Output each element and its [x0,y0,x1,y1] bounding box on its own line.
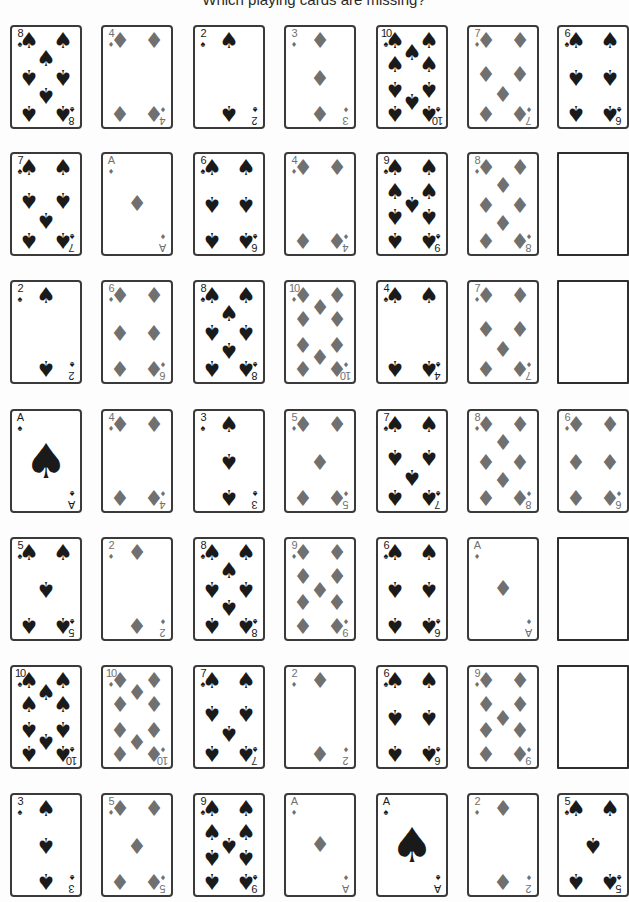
card-index-br: A♠ [432,873,444,894]
diamond-icon: ♦ [471,808,483,817]
diamond-icon: ♦ [144,694,164,716]
diamond-icon: ♦ [293,309,313,331]
playing-card: 4♦4♦♦♦♦♦ [101,25,173,129]
card-rank: 3 [288,28,300,39]
diamond-icon: ♦ [293,542,313,564]
spade-icon: ♠ [385,542,405,564]
card-rank: A [432,883,444,894]
card-rank: 3 [197,412,209,423]
card-index-br: 3♠ [66,873,78,894]
diamond-icon: ♦ [110,694,130,716]
card-index-tl: 2♦ [105,540,117,561]
playing-card: 6♠6♠♠♠♠♠♠♠ [557,25,629,129]
diamond-icon: ♦ [476,718,496,740]
playing-card: 7♠7♠♠♠♠♠♠♠♠ [10,152,82,256]
playing-card: A♦A♦♦ [467,537,539,641]
spade-icon: ♠ [566,870,586,892]
card-index-br: 2♦ [523,873,535,894]
diamond-icon: ♦ [127,542,147,564]
card-index-br: A♦ [340,873,352,894]
playing-card: 7♦7♦♦♦♦♦♦♦♦ [467,280,539,384]
spade-icon: ♠ [419,706,439,728]
diamond-icon: ♦ [523,617,535,626]
spade-icon: ♠ [53,157,73,179]
diamond-icon: ♦ [340,745,352,754]
spade-icon: ♠ [219,414,239,436]
card-index-tl: 2♦ [288,668,300,689]
card-rank: 2 [14,283,26,294]
card-rank: A [523,627,535,638]
playing-card: 9♦9♦♦♦♦♦♦♦♦♦♦ [467,665,539,769]
diamond-icon: ♦ [327,414,347,436]
playing-card: 3♠3♠♠♠♠ [193,409,265,513]
diamond-icon: ♦ [510,742,530,764]
spade-icon: ♠ [385,486,405,508]
diamond-icon: ♦ [476,670,496,692]
diamond-icon: ♦ [600,414,620,436]
playing-card: 10♠10♠♠♠♠♠♠♠♠♠♠♠ [376,25,448,129]
diamond-icon: ♦ [476,30,496,52]
card-rank: A [14,412,26,423]
diamond-icon: ♦ [144,321,164,343]
spade-icon: ♠ [219,486,239,508]
diamond-icon: ♦ [127,614,147,636]
card-index-br: 3♠ [249,489,261,510]
diamond-icon: ♦ [110,742,130,764]
question-title: Which playing cards are missing? [0,0,628,8]
diamond-icon: ♦ [600,486,620,508]
playing-card: 7♠7♠♠♠♠♠♠♠♠ [376,409,448,513]
card-index-tl: A♦ [105,155,117,176]
card-index-tl: A♠ [380,796,392,817]
diamond-icon: ♦ [110,414,130,436]
spade-icon: ♠ [600,102,620,124]
playing-card: 2♦2♦♦♦ [467,793,539,897]
playing-card: 9♠9♠♠♠♠♠♠♠♠♠♠ [376,152,448,256]
card-index-br: 2♠ [66,360,78,381]
card-index-br: A♠ [66,489,78,510]
diamond-icon: ♦ [144,870,164,892]
diamond-icon: ♦ [327,157,347,179]
spade-icon: ♠ [419,542,439,564]
diamond-icon: ♦ [310,66,330,88]
spade-icon: ♠ [236,357,256,379]
diamond-icon: ♦ [493,798,513,820]
spade-icon: ♠ [236,321,256,343]
diamond-icon: ♦ [510,317,530,339]
spade-icon: ♠ [19,102,39,124]
diamond-icon: ♦ [476,486,496,508]
spade-icon: ♠ [14,295,26,304]
spade-icon: ♠ [236,742,256,764]
spade-icon: ♠ [36,834,56,856]
playing-card: 5♦5♦♦♦♦♦♦ [101,793,173,897]
blank-card-slot [557,152,629,256]
playing-card: 2♠2♠♠♠ [193,25,265,129]
spade-icon: ♠ [419,54,439,76]
spade-icon: ♠ [419,181,439,203]
spade-icon: ♠ [385,205,405,227]
spade-icon: ♠ [385,229,405,251]
spade-icon: ♠ [53,30,73,52]
spade-icon: ♠ [236,846,256,868]
spade-icon: ♠ [14,424,26,433]
spade-icon: ♠ [236,798,256,820]
card-index-tl: 3♦ [288,28,300,49]
card-index-tl: 2♦ [471,796,483,817]
diamond-icon: ♦ [510,450,530,472]
spade-icon: ♠ [202,614,222,636]
blank-card-slot [557,665,629,769]
diamond-icon: ♦ [127,834,147,856]
spade-icon: ♠ [566,30,586,52]
diamond-icon: ♦ [471,552,483,561]
card-index-br: A♦ [157,232,169,253]
card-rank: A [157,242,169,253]
spade-icon: ♠ [219,30,239,52]
diamond-icon: ♦ [566,414,586,436]
diamond-icon: ♦ [105,167,117,176]
diamond-icon: ♦ [510,694,530,716]
card-rank: A [105,155,117,166]
diamond-icon: ♦ [157,232,169,241]
spade-icon: ♠ [219,450,239,472]
diamond-icon: ♦ [110,486,130,508]
spade-icon: ♠ [419,578,439,600]
card-rank: 2 [105,540,117,551]
